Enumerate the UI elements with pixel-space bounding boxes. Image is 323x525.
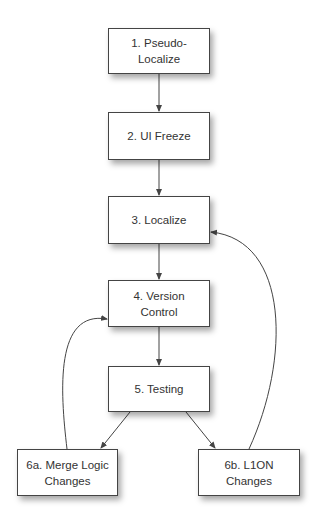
node-label-line: 1. Pseudo-: [131, 35, 187, 51]
node-label-line: Changes: [224, 473, 273, 489]
node-testing: 5. Testing: [108, 366, 210, 412]
node-label-line: 6a. Merge Logic: [26, 457, 108, 473]
node-l10n-changes: 6b. L1ONChanges: [198, 449, 300, 496]
node-version-control: 4. VersionControl: [108, 280, 210, 327]
node-label-line: Localize: [131, 51, 187, 67]
node-label-line: 2. UI Freeze: [127, 128, 190, 144]
node-localize: 3. Localize: [108, 196, 210, 244]
node-label-line: 4. Version: [133, 288, 184, 304]
node-label-line: 3. Localize: [132, 212, 187, 228]
node-label-line: 6b. L1ON: [224, 457, 273, 473]
edge-6b-to-3: [211, 232, 276, 449]
node-label-line: Changes: [26, 473, 108, 489]
edge-6a-to-4: [63, 318, 107, 449]
edges-layer: [0, 0, 323, 525]
edge-5-to-6b: [186, 412, 215, 448]
edge-5-to-6a: [101, 412, 130, 448]
node-label-line: Control: [133, 304, 184, 320]
node-label-line: 5. Testing: [134, 381, 183, 397]
node-merge-logic-changes: 6a. Merge LogicChanges: [17, 449, 118, 496]
node-ui-freeze: 2. UI Freeze: [108, 112, 210, 160]
node-pseudo-localize: 1. Pseudo-Localize: [108, 28, 210, 74]
